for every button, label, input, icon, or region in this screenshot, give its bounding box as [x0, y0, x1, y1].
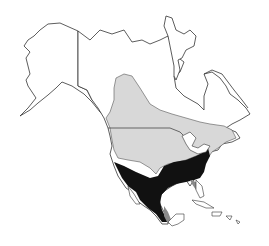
florida — [196, 180, 204, 198]
caribbean-islands — [192, 200, 240, 224]
central-america — [168, 214, 184, 226]
range-map — [0, 0, 269, 246]
